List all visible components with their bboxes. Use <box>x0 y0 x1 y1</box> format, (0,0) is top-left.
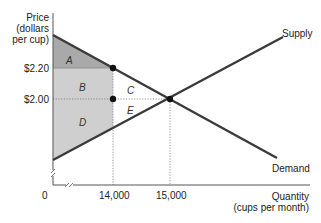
supply-label: Supply <box>282 28 313 39</box>
x-tick-0: 0 <box>42 190 48 201</box>
point-14000-2-00 <box>110 96 116 102</box>
y-axis-label-line-3: per cup) <box>12 34 49 45</box>
region-a-label: A <box>66 55 73 66</box>
equilibrium-point <box>167 96 173 102</box>
x-tick-14000: 14,000 <box>99 190 130 201</box>
y-tick-2-20: $2.20 <box>24 63 49 74</box>
x-tick-15000: 15,000 <box>156 190 187 201</box>
x-axis-label-line-1: Quantity <box>233 191 309 202</box>
point-14000-2-20 <box>110 65 116 71</box>
y-axis-label: Price (dollars per cup) <box>12 12 49 45</box>
region-d-label: D <box>79 117 86 128</box>
region-e-label: E <box>127 105 134 116</box>
region-b-label: B <box>79 82 86 93</box>
demand-label: Demand <box>272 163 310 174</box>
x-axis-label-line-2: (cups per month) <box>233 202 309 213</box>
y-axis-label-line-2: (dollars <box>12 23 49 34</box>
x-axis-label: Quantity (cups per month) <box>233 191 309 213</box>
y-tick-2-00: $2.00 <box>24 94 49 105</box>
y-axis-break-icon <box>50 169 56 177</box>
region-c-label: C <box>127 85 134 96</box>
y-axis-label-line-1: Price <box>12 12 49 23</box>
x-axis-break-icon <box>65 182 73 188</box>
